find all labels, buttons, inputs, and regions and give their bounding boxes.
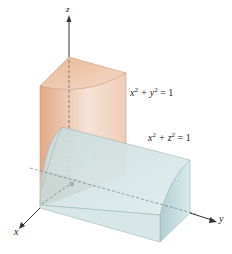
intersecting-cylinders-diagram bbox=[0, 0, 232, 254]
origin-label: 0 bbox=[70, 180, 74, 188]
cylinder-x2-z2 bbox=[40, 127, 190, 242]
y-axis-label: y bbox=[219, 213, 223, 224]
z-axis-label: z bbox=[66, 4, 70, 14]
figure-canvas: z x y 0 x2 + y2 = 1 x2 + z2 = 1 bbox=[0, 0, 232, 254]
y-axis bbox=[190, 213, 212, 220]
y-axis-arrow-icon bbox=[209, 217, 217, 223]
z-axis-arrow-icon bbox=[67, 15, 72, 22]
x-axis-arrow-icon bbox=[19, 222, 25, 229]
x-axis bbox=[22, 208, 40, 226]
equation-x2-z2: x2 + z2 = 1 bbox=[148, 131, 191, 143]
equation-x2-y2: x2 + y2 = 1 bbox=[130, 86, 173, 98]
x-axis-label: x bbox=[14, 226, 18, 237]
